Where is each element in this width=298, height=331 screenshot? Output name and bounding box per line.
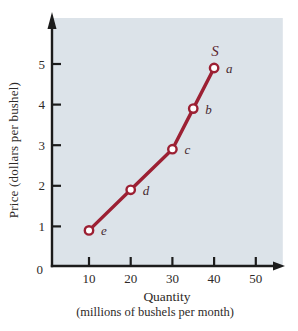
supply-curve-figure: 1234510203040500edcbaS Price (dollars pe… xyxy=(0,0,298,331)
origin-label: 0 xyxy=(37,262,44,277)
y-axis-title: Price (dollars per bushel) xyxy=(6,82,22,218)
curve-label-s: S xyxy=(211,43,219,59)
y-tick-label: 2 xyxy=(39,178,46,193)
point-label-a: a xyxy=(226,61,233,76)
x-axis-title: Quantity xyxy=(52,289,282,305)
x-tick-label: 50 xyxy=(249,271,262,286)
x-tick-label: 30 xyxy=(166,271,179,286)
y-tick-label: 4 xyxy=(39,97,46,112)
x-tick-label: 10 xyxy=(83,271,96,286)
data-point-c xyxy=(168,145,176,153)
x-axis-subtitle: (millions of bushels per month) xyxy=(20,305,290,320)
point-label-d: d xyxy=(143,183,150,198)
data-point-a xyxy=(210,64,218,72)
data-point-d xyxy=(127,186,135,194)
y-tick-label: 5 xyxy=(39,57,46,72)
point-label-c: c xyxy=(184,142,190,157)
x-tick-label: 20 xyxy=(124,271,137,286)
supply-curve-chart: 1234510203040500edcbaS xyxy=(0,0,298,331)
point-label-b: b xyxy=(205,102,212,117)
data-point-e xyxy=(85,226,93,234)
data-point-b xyxy=(189,104,197,112)
y-tick-label: 3 xyxy=(39,138,46,153)
x-tick-label: 40 xyxy=(208,271,221,286)
y-tick-label: 1 xyxy=(39,219,46,234)
point-label-e: e xyxy=(101,223,107,238)
